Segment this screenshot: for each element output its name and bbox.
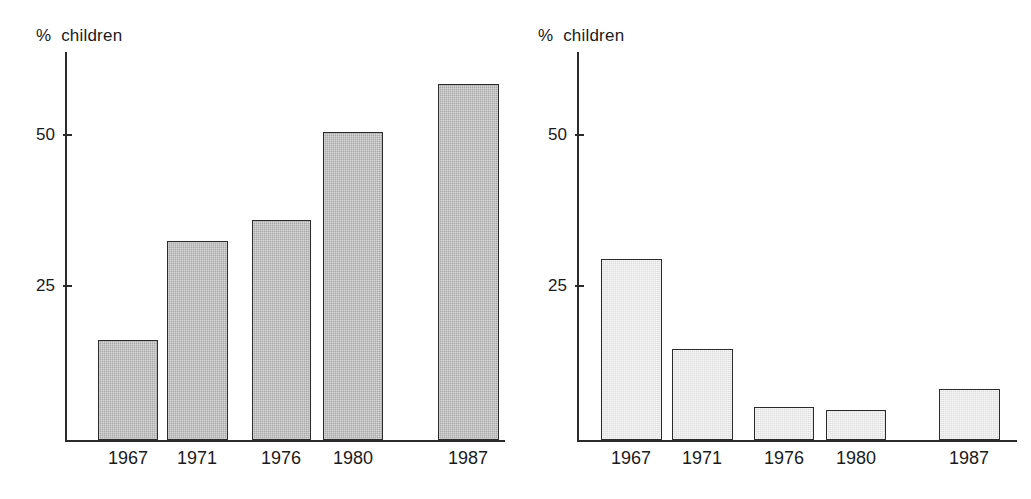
right-chart-tick-label-50: 50 [522,125,567,145]
left-chart-tick-50 [63,134,72,136]
left-chart-tick-25 [63,285,72,287]
left-chart-axis-title: % children [36,26,122,46]
bar-1987 [438,84,499,440]
right-chart-tick-50 [575,134,584,136]
left-chart-tick-label-25: 25 [10,276,55,296]
bar-1971 [672,349,733,440]
bar-1976 [252,220,311,440]
right-chart-axis-title: % children [538,26,624,46]
bar-1980 [826,410,886,440]
left-chart-tick-label-50: 50 [10,125,55,145]
right-bar-chart-panel: % children 50 25 1967 1971 1976 1980 198… [515,0,1031,499]
x-label-1980: 1980 [816,448,896,469]
right-chart-tick-25 [575,285,584,287]
bar-1967 [98,340,158,440]
x-label-1967: 1967 [591,448,671,469]
left-bar-chart-panel: % children 50 25 1967 1971 1976 1980 198… [0,0,515,499]
x-label-1967: 1967 [88,448,168,469]
bar-1987 [939,389,1000,440]
bar-1971 [167,241,228,440]
bar-1980 [323,132,383,440]
left-chart-y-axis [65,52,67,442]
right-chart-tick-label-25: 25 [522,276,567,296]
right-chart-x-axis [577,440,1017,442]
x-label-1987: 1987 [428,448,508,469]
bar-1976 [754,407,814,440]
bar-1967 [601,259,662,440]
right-chart-y-axis [577,52,579,442]
chart-page: % children 50 25 1967 1971 1976 1980 198… [0,0,1031,499]
x-label-1980: 1980 [313,448,393,469]
left-chart-x-axis [65,440,505,442]
x-label-1971: 1971 [662,448,742,469]
x-label-1987: 1987 [929,448,1009,469]
x-label-1976: 1976 [241,448,321,469]
x-label-1976: 1976 [744,448,824,469]
x-label-1971: 1971 [157,448,237,469]
